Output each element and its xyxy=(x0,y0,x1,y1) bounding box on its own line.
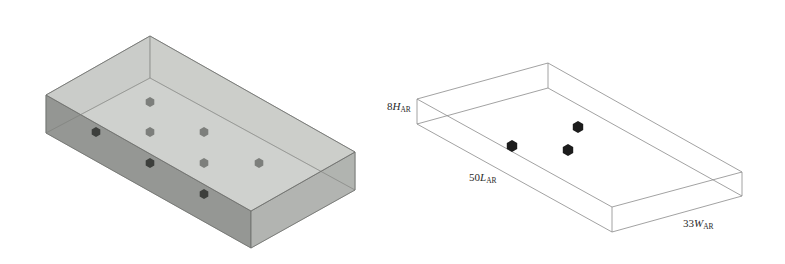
cube-marker xyxy=(563,144,573,156)
height-label: 8HAR xyxy=(387,101,411,114)
length-label: 50LAR xyxy=(469,172,497,185)
right-cube-markers xyxy=(507,121,583,156)
cube-marker xyxy=(507,140,517,152)
left-shaded-box xyxy=(0,0,785,264)
cube-marker xyxy=(573,121,583,133)
right-wireframe-box xyxy=(417,63,742,232)
width-label: 33WAR xyxy=(683,218,714,231)
